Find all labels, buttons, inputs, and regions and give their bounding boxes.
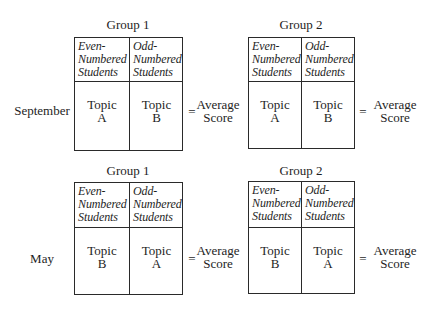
topic-cell-odd: Topic B (130, 98, 183, 124)
header-odd-students: Odd- Numbered Students (302, 38, 356, 81)
row-label-september: September (10, 104, 74, 118)
average-score-label: Average Score (188, 98, 248, 124)
group-title: Group 2 (246, 164, 356, 178)
row-label-may: May (10, 252, 74, 266)
header-even-students: Even- Numbered Students (249, 182, 301, 227)
topic-cell-even: Topic A (249, 98, 301, 124)
header-even-students: Even- Numbered Students (249, 38, 301, 81)
group-grid: Even- Numbered Students Odd- Numbered St… (74, 37, 183, 151)
header-odd-students: Odd- Numbered Students (130, 183, 184, 227)
topic-cell-even: Topic B (75, 244, 129, 270)
average-score-label: Average Score (365, 98, 425, 124)
header-divider (249, 81, 354, 82)
topic-cell-even: Topic A (75, 98, 129, 124)
header-divider (75, 81, 182, 82)
header-odd-students: Odd- Numbered Students (302, 182, 356, 227)
group-grid: Even- Numbered Students Odd- Numbered St… (248, 181, 355, 294)
average-score-label: Average Score (188, 244, 248, 270)
topic-cell-even: Topic B (249, 244, 301, 270)
topic-cell-odd: Topic A (130, 244, 183, 270)
average-score-label: Average Score (365, 244, 425, 270)
topic-cell-odd: Topic A (302, 244, 354, 270)
header-odd-students: Odd- Numbered Students (130, 38, 184, 81)
group-grid: Even- Numbered Students Odd- Numbered St… (248, 37, 355, 149)
topic-cell-odd: Topic B (302, 98, 354, 124)
group-title: Group 1 (73, 18, 183, 32)
header-divider (75, 227, 182, 228)
group-title: Group 1 (73, 164, 183, 178)
header-divider (249, 227, 354, 228)
group-grid: Even- Numbered Students Odd- Numbered St… (74, 182, 183, 295)
header-even-students: Even- Numbered Students (75, 183, 129, 227)
header-even-students: Even- Numbered Students (75, 38, 129, 81)
group-title: Group 2 (246, 18, 356, 32)
